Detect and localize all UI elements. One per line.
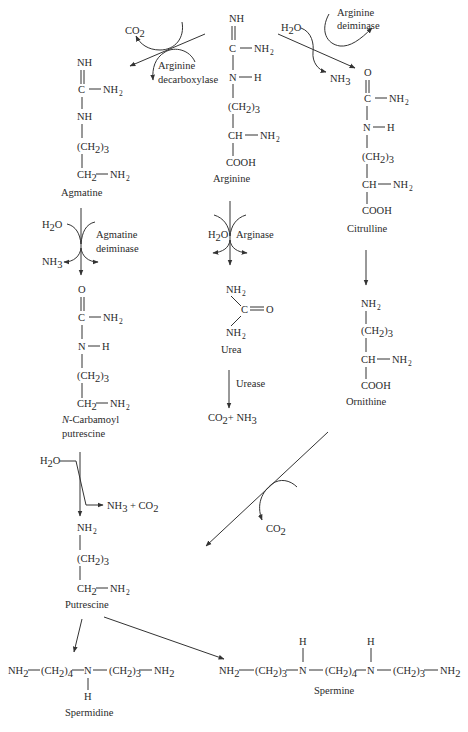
svg-text:(CH2)3: (CH2)3 — [77, 553, 109, 567]
svg-text:N: N — [299, 665, 307, 676]
ornithine-decarboxylation-reaction: CO2 — [206, 432, 328, 546]
urea-label: Urea — [221, 344, 242, 355]
svg-text:N: N — [367, 665, 375, 676]
svg-text:2: 2 — [126, 403, 130, 412]
svg-text:NH: NH — [77, 111, 93, 122]
svg-text:CH: CH — [228, 130, 243, 141]
svg-text:2: 2 — [126, 588, 130, 597]
svg-text:CH2: CH2 — [77, 169, 97, 183]
svg-text:O: O — [364, 67, 372, 78]
putrescine-structure: NH2 (CH2)3 CH2 NH2 Putrescine — [65, 522, 130, 610]
svg-text:NH: NH — [77, 57, 93, 68]
n-carbamoyl-putrescine-label-line2: putrescine — [62, 428, 105, 439]
svg-text:NH: NH — [77, 522, 93, 533]
svg-text:CH: CH — [361, 354, 376, 365]
putrescine-label: Putrescine — [65, 599, 109, 610]
svg-text:CO2: CO2 — [125, 25, 145, 39]
svg-text:H: H — [254, 72, 262, 83]
svg-text:C: C — [241, 304, 248, 315]
svg-text:NH: NH — [229, 13, 245, 24]
svg-text:CH2: CH2 — [77, 583, 97, 597]
svg-text:CO2: CO2 — [266, 523, 286, 537]
svg-text:NH: NH — [226, 284, 242, 295]
svg-text:(CH2)3: (CH2)3 — [109, 665, 141, 679]
svg-text:(CH2)3: (CH2)3 — [228, 101, 260, 115]
svg-text:NH: NH — [254, 43, 270, 54]
agmatine-label: Agmatine — [61, 187, 103, 198]
enzyme-arginase: Arginase — [236, 229, 274, 240]
svg-text:CH: CH — [362, 179, 377, 190]
svg-text:2: 2 — [242, 289, 246, 298]
arrow-putrescine-to-spermidine — [74, 619, 82, 652]
arginine-decarboxylase-reaction: CO2 Arginine decarboxylase — [125, 22, 218, 85]
svg-text:N: N — [84, 665, 92, 676]
enzyme-agmatine-deiminase-line2: deiminase — [96, 243, 139, 254]
ornithine-label: Ornithine — [346, 396, 387, 407]
svg-text:(CH2)3: (CH2)3 — [77, 370, 109, 384]
svg-text:C: C — [364, 93, 371, 104]
svg-text:(CH2)4: (CH2)4 — [41, 665, 74, 679]
enzyme-arginine-decarboxylase-line1: Arginine — [158, 60, 195, 71]
svg-text:NH: NH — [110, 583, 126, 594]
svg-text:C: C — [78, 84, 85, 95]
svg-text:2: 2 — [119, 317, 123, 326]
urea-structure: NH2 C O NH2 Urea — [221, 284, 274, 355]
svg-text:NH: NH — [110, 169, 126, 180]
svg-text:(CH2)3: (CH2)3 — [255, 665, 287, 679]
svg-text:H: H — [102, 341, 110, 352]
svg-text:NH2: NH2 — [440, 665, 460, 679]
citrulline-structure: O C NH2 N H (CH2)3 CH NH2 COOH Citrullin… — [347, 67, 413, 234]
arginine-structure: NH C NH2 N H (CH2)3 CH NH2 COOH Arginine — [213, 13, 280, 184]
svg-text:(CH2)3: (CH2)3 — [361, 325, 393, 339]
svg-text:N: N — [363, 122, 371, 133]
svg-text:NH2: NH2 — [8, 665, 28, 679]
enzyme-urease: Urease — [236, 378, 265, 389]
svg-text:N: N — [78, 341, 86, 352]
svg-text:COOH: COOH — [362, 205, 392, 216]
svg-text:COOH: COOH — [361, 380, 391, 391]
spermine-label: Spermine — [314, 685, 355, 696]
enzyme-arginine-decarboxylase-line2: decarboxylase — [158, 74, 218, 85]
svg-text:NH: NH — [110, 398, 126, 409]
svg-text:NH: NH — [392, 354, 408, 365]
spermidine-structure: NH2 (CH2)4 N (CH2)3 NH2 H Spermidine — [8, 665, 174, 718]
svg-text:NH3: NH3 — [42, 256, 62, 270]
svg-text:(CH2)3: (CH2)3 — [77, 141, 109, 155]
arginase-reaction: H2O Arginase — [208, 201, 274, 265]
enzyme-arginine-deiminase-line1: Arginine — [337, 7, 374, 18]
ornithine-structure: NH2 (CH2)3 CH NH2 COOH Ornithine — [346, 298, 412, 407]
spermine-structure: NH2 (CH2)3 N H (CH2)4 N H (CH2)3 NH2 Spe… — [219, 636, 460, 696]
svg-text:2: 2 — [408, 359, 412, 368]
spermidine-label: Spermidine — [65, 707, 114, 718]
enzyme-arginine-deiminase-line2: deiminase — [337, 20, 380, 31]
svg-text:H: H — [299, 636, 307, 647]
svg-text:2: 2 — [93, 527, 97, 536]
svg-text:O: O — [78, 284, 86, 295]
svg-text:2: 2 — [270, 48, 274, 57]
svg-text:NH2: NH2 — [154, 665, 174, 679]
citrulline-label: Citrulline — [347, 223, 388, 234]
svg-text:H2O: H2O — [281, 22, 302, 36]
svg-text:2: 2 — [276, 135, 280, 144]
svg-text:(CH2)3: (CH2)3 — [362, 151, 394, 165]
svg-text:NH3 + CO2: NH3 + CO2 — [107, 500, 158, 514]
svg-text:O: O — [266, 304, 274, 315]
n-carbamoyl-putrescine-structure: O C NH2 N H (CH2)3 CH2 NH2 N-Carbamoyl p… — [61, 284, 130, 439]
svg-text:2: 2 — [405, 98, 409, 107]
svg-text:2: 2 — [377, 303, 381, 312]
n-carbamoyl-putrescine-label: N-Carbamoyl — [61, 414, 119, 425]
svg-text:COOH: COOH — [226, 157, 256, 168]
svg-text:CH2: CH2 — [77, 398, 97, 412]
svg-text:N: N — [229, 72, 237, 83]
svg-text:CO2+ NH3: CO2+ NH3 — [208, 412, 257, 426]
carbamoyl-hydrolysis-reaction: H2O NH3 + CO2 — [40, 452, 158, 516]
svg-text:NH: NH — [393, 179, 409, 190]
svg-text:NH: NH — [226, 327, 242, 338]
agmatine-deiminase-reaction: H2O NH3 Agmatine deiminase — [42, 208, 139, 275]
svg-text:NH: NH — [103, 312, 119, 323]
svg-text:H2O: H2O — [208, 229, 229, 243]
svg-text:H: H — [367, 636, 375, 647]
arginine-label: Arginine — [213, 173, 250, 184]
svg-text:2: 2 — [409, 184, 413, 193]
svg-text:H2O: H2O — [42, 219, 63, 233]
